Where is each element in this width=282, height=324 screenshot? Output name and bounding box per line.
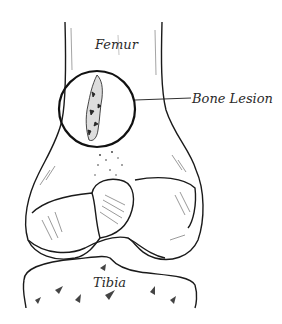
bone-lesion-label: Bone Lesion [192, 92, 273, 105]
bone-speckles [94, 151, 122, 176]
knee-diagram: Femur Bone Lesion Tibia [0, 0, 282, 324]
lesion-leader-line [135, 98, 191, 100]
tibia-label: Tibia [93, 276, 126, 289]
femur-label: Femur [95, 38, 138, 51]
bone-illustration [0, 0, 282, 324]
lesion-mark [86, 75, 102, 141]
femur-condyles [26, 170, 203, 259]
